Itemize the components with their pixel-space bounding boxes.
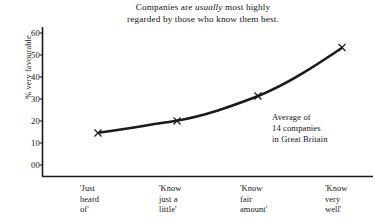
- x-category-label-3: 'Know fair amount': [240, 184, 267, 216]
- x-category-label-2: 'Know just a little': [159, 184, 181, 216]
- chart-annotation: Average of 14 companies in Great Britain: [272, 112, 328, 145]
- data-point-marker-4: [339, 44, 346, 51]
- x-category-label-1: 'Just heard of': [80, 184, 99, 216]
- x-category-label-4: 'Know very well': [325, 184, 347, 216]
- annotation-line-3: in Great Britain: [272, 134, 328, 145]
- annotation-line-1: Average of: [272, 112, 328, 123]
- annotation-line-2: 14 companies: [272, 123, 328, 134]
- chart-figure: Companies are usually most highly regard…: [0, 0, 375, 224]
